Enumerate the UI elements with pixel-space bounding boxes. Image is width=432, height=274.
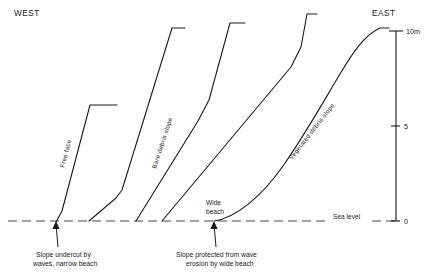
slope-label-bare-debris-slope: Bare debris slope [150,116,173,169]
diagram-canvas: WEST EAST Sea level 10m 5 0 Free face Ba… [0,0,432,274]
axis-label-0: 0 [404,217,408,226]
annotation-undercut-line2: waves, narrow beach [32,260,97,267]
axis-label-5: 5 [404,122,408,131]
annotation-protected-line1: Slope protected from wave [176,251,257,259]
east-label: EAST [372,9,395,18]
profile-line-5-vegetated-debris [214,28,389,221]
west-label: WEST [14,9,40,18]
slope-profile-svg: WEST EAST Sea level 10m 5 0 Free face Ba… [0,0,432,274]
annotation-undercut-line1: Slope undercut by [36,251,91,259]
sea-level-label: Sea level [333,213,361,220]
annotation-protected-line2: erosion by wide beach [186,260,254,268]
annotation-arrowhead-undercut [52,221,59,229]
slope-label-vegetated-debris-slope: Vegetated debris slope [287,101,335,160]
slope-label-free-face: Free face [58,138,72,168]
wide-beach-label-line1: Wide [206,199,221,206]
profile-line-4-vegetated-debris [162,14,317,221]
axis-label-10m: 10m [406,27,420,36]
annotation-arrowhead-protected [210,221,217,229]
wide-beach-label-line2: beach [206,208,224,215]
profile-line-3-bare-debris [136,23,245,221]
